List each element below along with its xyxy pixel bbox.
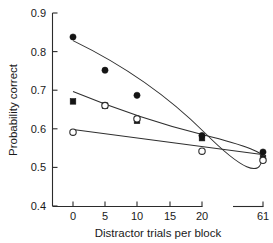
x-tick-label-10: 10 <box>131 210 143 222</box>
x-axis-ticks <box>73 202 263 207</box>
y-tick-label-0.5: 0.5 <box>31 161 46 173</box>
x-tick-label-0: 0 <box>70 210 76 222</box>
data-point <box>199 148 205 154</box>
y-tick-label-0.8: 0.8 <box>31 46 46 58</box>
data-point <box>260 149 266 155</box>
data-point <box>70 99 76 105</box>
x-tick-label-61: 61 <box>257 210 269 222</box>
x-tick-label-15: 15 <box>164 210 176 222</box>
data-point <box>102 67 108 73</box>
series-filled-circle-markers <box>70 34 266 155</box>
data-point <box>260 157 266 163</box>
data-point <box>134 116 140 122</box>
data-point <box>199 135 205 141</box>
y-axis-ticks <box>53 13 58 206</box>
y-axis-title: Probability correct <box>7 63 19 156</box>
trend-line-open-circle-series <box>73 130 262 155</box>
x-tick-label-20: 20 <box>196 210 208 222</box>
y-tick-label-0.7: 0.7 <box>31 84 46 96</box>
chart-figure: 0.9 0.8 0.7 0.6 0.5 0.4 0 5 10 15 20 61 … <box>0 0 273 243</box>
trend-line-filled-square-series <box>73 91 263 158</box>
data-point <box>70 129 76 135</box>
y-tick-label-0.6: 0.6 <box>31 123 46 135</box>
data-point <box>134 92 140 98</box>
data-point <box>70 34 76 40</box>
y-tick-label-0.4: 0.4 <box>31 200 46 212</box>
x-axis-title: Distractor trials per block <box>95 227 222 239</box>
scatter-plot: 0.9 0.8 0.7 0.6 0.5 0.4 0 5 10 15 20 61 … <box>0 0 273 243</box>
trend-line-filled-circle-series <box>73 41 262 169</box>
y-tick-label-0.9: 0.9 <box>31 7 46 19</box>
x-tick-label-5: 5 <box>102 210 108 222</box>
data-point <box>102 102 108 108</box>
